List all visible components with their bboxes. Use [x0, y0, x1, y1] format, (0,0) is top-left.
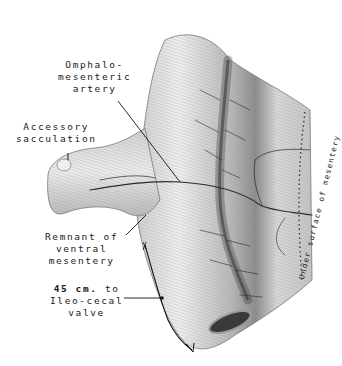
accessory-sacculation-shape	[57, 159, 71, 171]
intestine-body	[136, 35, 312, 349]
distance-value: 45 cm.	[54, 283, 98, 294]
label-omphalomesenteric-artery: Omphalo- mesenteric artery	[58, 59, 131, 95]
label-accessory-sacculation: Accessory sacculation	[16, 121, 97, 145]
label-remnant-ventral-mesentery: Remnant of ventral mesentery	[45, 231, 118, 267]
label-distance-ileocecal: 45 cm. to Ileo-cecal valve	[50, 283, 123, 319]
